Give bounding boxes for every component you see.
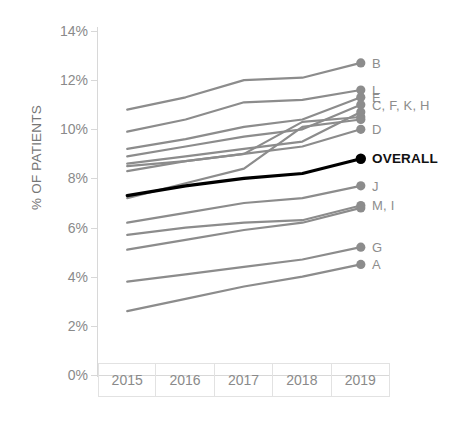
y-tick-mark (91, 326, 98, 327)
x-axis-year-2017: 2017 (215, 364, 273, 396)
y-tick-mark (91, 31, 98, 32)
series-label-M: M, I (372, 199, 394, 212)
y-tick-mark (91, 129, 98, 130)
series-endpoint-dot-D (356, 125, 365, 134)
series-line-G (127, 247, 361, 281)
series-lines-layer (0, 0, 474, 423)
x-axis-year-cells: 20152016201720182019 (98, 363, 390, 397)
y-tick-mark (91, 277, 98, 278)
y-tick-mark (91, 228, 98, 229)
series-endpoint-dot-B (356, 58, 365, 67)
series-line-A (127, 264, 361, 311)
x-axis-year-2018: 2018 (273, 364, 331, 396)
series-label-G: G (372, 241, 382, 254)
series-endpoint-dot-OVERALL (356, 154, 366, 164)
series-endpoint-dot-I (356, 203, 365, 212)
series-label-OVERALL: OVERALL (372, 152, 438, 166)
series-label-J: J (372, 179, 379, 192)
x-axis-year-2019: 2019 (332, 364, 390, 396)
y-tick-mark (91, 375, 98, 376)
x-axis-year-2016: 2016 (156, 364, 214, 396)
y-tick-mark (91, 178, 98, 179)
series-label-A: A (372, 258, 381, 271)
series-endpoint-dot-G (356, 243, 365, 252)
series-label-D: D (372, 123, 382, 136)
series-endpoint-dot-J (356, 181, 365, 190)
y-tick-mark (91, 80, 98, 81)
series-label-C: C, F, K, H (372, 98, 430, 111)
x-axis-year-2015: 2015 (98, 364, 156, 396)
series-endpoint-dot-H (356, 115, 365, 124)
line-chart: % OF PATIENTS 0%2%4%6%8%10%12%14% BLEC, … (0, 0, 474, 423)
series-endpoint-dot-A (356, 260, 365, 269)
series-label-B: B (372, 56, 381, 69)
